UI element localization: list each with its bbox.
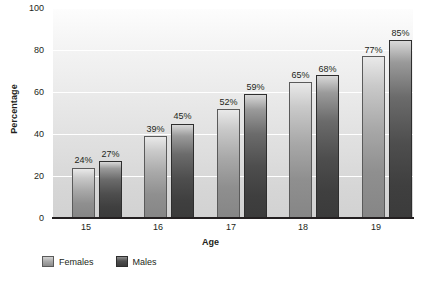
plot-area: 24% 27% 39% 45% 52% 59% 65% 68% 77% 85% (53, 8, 413, 218)
bar-value-males-17: 59% (240, 83, 271, 92)
bar-males-19 (389, 40, 412, 219)
legend-swatch-females-icon (42, 256, 54, 267)
bar-males-17 (244, 94, 267, 218)
y-tick-label-0: 0 (0, 214, 44, 223)
legend-swatch-males-icon (116, 256, 128, 267)
y-tick-label-80: 80 (0, 46, 44, 55)
bar-value-males-18: 68% (312, 65, 343, 74)
bar-males-16 (171, 124, 194, 219)
x-axis-title: Age (0, 237, 421, 247)
bar-chart: Percentage 100 80 60 40 20 0 24% 27% 39%… (0, 0, 421, 287)
bar-value-females-16: 39% (140, 125, 171, 134)
bar-value-females-19: 77% (358, 46, 389, 55)
y-tick-label-40: 40 (0, 130, 44, 139)
x-tick-label-18: 18 (283, 222, 323, 232)
bar-value-males-19: 85% (385, 29, 416, 38)
bar-value-males-16: 45% (167, 112, 198, 121)
bar-females-19 (362, 56, 385, 218)
bar-males-18 (316, 75, 339, 218)
x-axis-line (52, 217, 414, 219)
gridline-60 (53, 92, 413, 93)
legend-label-females: Females (59, 257, 94, 267)
legend-label-males: Males (133, 257, 157, 267)
x-tick-label-15: 15 (66, 222, 106, 232)
bar-females-18 (289, 82, 312, 219)
bar-value-females-17: 52% (213, 98, 244, 107)
gridline-100 (53, 8, 413, 9)
bar-females-16 (144, 136, 167, 218)
y-tick-label-60: 60 (0, 88, 44, 97)
legend-entry-females: Females (42, 256, 94, 267)
legend: Females Males (42, 256, 179, 267)
x-tick-label-16: 16 (138, 222, 178, 232)
x-tick-label-17: 17 (211, 222, 251, 232)
x-tick-label-19: 19 (356, 222, 396, 232)
bar-females-17 (217, 109, 240, 218)
y-axis-title: Percentage (9, 54, 19, 164)
y-tick-label-100: 100 (0, 4, 44, 13)
bar-males-15 (99, 161, 122, 218)
bar-females-15 (72, 168, 95, 218)
y-tick-label-20: 20 (0, 172, 44, 181)
legend-entry-males: Males (116, 256, 157, 267)
bar-value-males-15: 27% (95, 150, 126, 159)
